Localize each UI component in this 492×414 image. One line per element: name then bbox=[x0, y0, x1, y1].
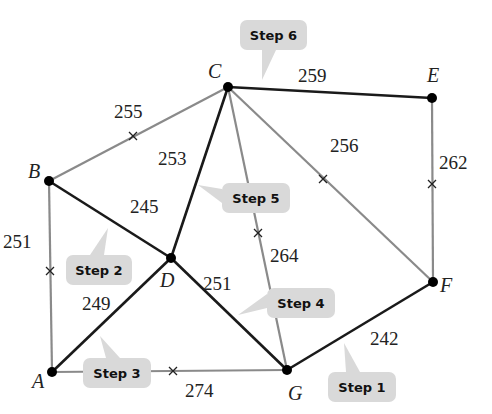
edge-weight-e-f: 262 bbox=[439, 152, 468, 173]
edge-weight-b-c: 255 bbox=[114, 101, 143, 122]
callout-step-5: Step 5 bbox=[232, 191, 279, 206]
vertex-c bbox=[223, 82, 233, 92]
callout-step-3: Step 3 bbox=[93, 366, 140, 381]
vertex-label-d: D bbox=[159, 269, 175, 291]
callout-pointer bbox=[100, 336, 120, 358]
edge-weight-f-g: 242 bbox=[370, 328, 399, 349]
edge-weight-c-f: 256 bbox=[330, 135, 359, 156]
edge-c-e bbox=[228, 87, 432, 98]
edge-weight-c-g: 264 bbox=[270, 245, 299, 266]
edge-weight-c-d: 253 bbox=[158, 148, 187, 169]
edge-a-b bbox=[49, 181, 52, 372]
vertex-label-g: G bbox=[288, 382, 303, 404]
vertex-d bbox=[166, 253, 176, 263]
vertex-label-e: E bbox=[426, 64, 439, 86]
callout-pointer bbox=[90, 228, 108, 255]
vertex-label-f: F bbox=[439, 274, 453, 296]
vertex-e bbox=[427, 93, 437, 103]
callout-pointer bbox=[238, 294, 267, 315]
graph-canvas: Step 1Step 2Step 3Step 4Step 5Step 62422… bbox=[0, 0, 492, 414]
graph-diagram: Step 1Step 2Step 3Step 4Step 5Step 62422… bbox=[0, 0, 492, 414]
callout-pointer bbox=[198, 185, 222, 203]
edge-weight-a-g: 274 bbox=[185, 380, 214, 401]
edge-weight-a-d: 249 bbox=[82, 293, 111, 314]
callout-step-1: Step 1 bbox=[338, 380, 385, 395]
edge-c-g bbox=[228, 87, 287, 370]
vertex-label-c: C bbox=[208, 60, 222, 82]
edge-weight-b-d: 245 bbox=[130, 196, 159, 217]
edge-weight-a-b: 251 bbox=[3, 231, 32, 252]
callout-pointer bbox=[262, 50, 276, 80]
edge-weight-d-g: 251 bbox=[203, 273, 232, 294]
callout-pointer bbox=[344, 343, 360, 372]
callout-step-2: Step 2 bbox=[75, 263, 122, 278]
edge-weight-c-e: 259 bbox=[298, 65, 327, 86]
vertex-b bbox=[44, 176, 54, 186]
vertex-a bbox=[47, 367, 57, 377]
callout-step-6: Step 6 bbox=[250, 28, 297, 43]
edge-b-d bbox=[49, 181, 171, 258]
edge-e-f bbox=[432, 98, 433, 282]
vertex-g bbox=[282, 365, 292, 375]
vertex-f bbox=[428, 277, 438, 287]
callout-step-4: Step 4 bbox=[277, 296, 324, 311]
vertex-label-a: A bbox=[30, 370, 45, 392]
vertex-label-b: B bbox=[28, 160, 40, 182]
